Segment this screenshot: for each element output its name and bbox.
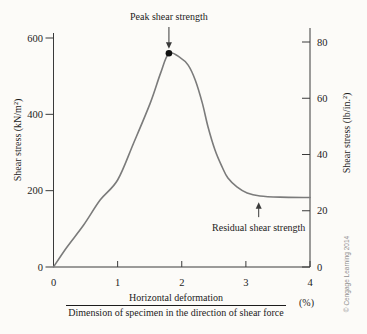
left-axis-tick-label: 400 xyxy=(27,109,43,120)
peak-point-marker xyxy=(166,50,173,57)
chart-canvas: 020040060002040608001234 xyxy=(0,0,367,334)
peak-annotation-label: Peak shear strength xyxy=(130,11,208,22)
x-axis-title: Horizontal deformation Dimension of spec… xyxy=(56,292,296,319)
shear-strength-figure: 020040060002040608001234 Peak shear stre… xyxy=(0,0,367,334)
residual-arrowhead-icon xyxy=(256,202,262,209)
x-axis-unit: (%) xyxy=(299,297,314,308)
stress-curve xyxy=(54,53,311,267)
x-axis-tick-label: 2 xyxy=(179,277,184,288)
left-axis-tick-label: 0 xyxy=(38,262,43,273)
x-axis-tick-label: 1 xyxy=(115,277,120,288)
x-axis-tick-label: 0 xyxy=(51,277,56,288)
peak-arrowhead-icon xyxy=(166,42,172,49)
x-axis-tick-label: 4 xyxy=(307,277,313,288)
right-axis-tick-label: 60 xyxy=(317,93,328,104)
right-axis-tick-label: 20 xyxy=(317,205,328,216)
right-axis-title: Shear stress (lb/in.²) xyxy=(341,93,352,173)
x-axis-tick-label: 3 xyxy=(243,277,248,288)
residual-annotation-label: Residual shear strength xyxy=(212,222,305,233)
x-axis-label-numerator: Horizontal deformation xyxy=(66,292,285,305)
right-axis-tick-label: 40 xyxy=(317,149,328,160)
left-axis-tick-label: 200 xyxy=(27,185,43,196)
x-axis-label-denominator: Dimension of specimen in the direction o… xyxy=(66,305,285,319)
copyright-text: © Cengage Learning 2014 xyxy=(343,236,350,312)
x-axis-fraction: Horizontal deformation Dimension of spec… xyxy=(66,292,285,319)
right-axis-tick-label: 0 xyxy=(317,262,322,273)
right-axis-tick-label: 80 xyxy=(317,37,328,48)
left-axis-title: Shear stress (kN/m²) xyxy=(12,99,23,181)
left-axis-tick-label: 600 xyxy=(27,33,43,44)
